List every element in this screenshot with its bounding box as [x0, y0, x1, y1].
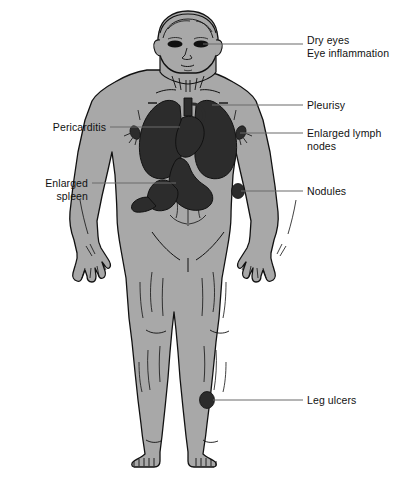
- label-enlarged-spleen: Enlarged spleen: [6, 177, 88, 202]
- ear-right: [215, 40, 222, 56]
- label-pericarditis: Pericarditis: [6, 121, 106, 134]
- body-diagram-svg: [0, 0, 405, 482]
- body-silhouette: [70, 11, 296, 467]
- trachea: [184, 98, 192, 116]
- label-enlarged-lymph-nodes: Enlarged lymph nodes: [307, 127, 381, 152]
- label-leg-ulcers: Leg ulcers: [307, 394, 356, 407]
- label-nodules: Nodules: [307, 185, 346, 198]
- rheumatoid-arthritis-body-diagram: Dry eyes Eye inflammation Pleurisy Enlar…: [0, 0, 405, 482]
- label-dry-eyes: Dry eyes Eye inflammation: [307, 34, 389, 59]
- eye-left-marker: [168, 40, 183, 47]
- leg-ulcer-marker: [200, 392, 215, 409]
- ear-left: [154, 40, 161, 56]
- label-pleurisy: Pleurisy: [307, 99, 345, 112]
